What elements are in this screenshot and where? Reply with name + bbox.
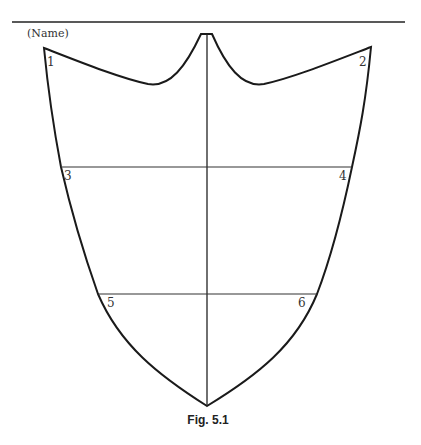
point-label-6: 6 bbox=[298, 296, 306, 310]
figure-caption: Fig. 5.1 bbox=[187, 413, 229, 427]
point-label-5: 5 bbox=[107, 296, 115, 310]
point-label-1: 1 bbox=[47, 55, 55, 69]
name-label: (Name) bbox=[27, 27, 69, 40]
point-label-2: 2 bbox=[359, 55, 367, 69]
shield-diagram: (Name) 1 2 3 4 5 6 Fig. 5.1 bbox=[0, 0, 421, 445]
point-label-3: 3 bbox=[64, 169, 72, 183]
point-label-4: 4 bbox=[339, 169, 347, 183]
